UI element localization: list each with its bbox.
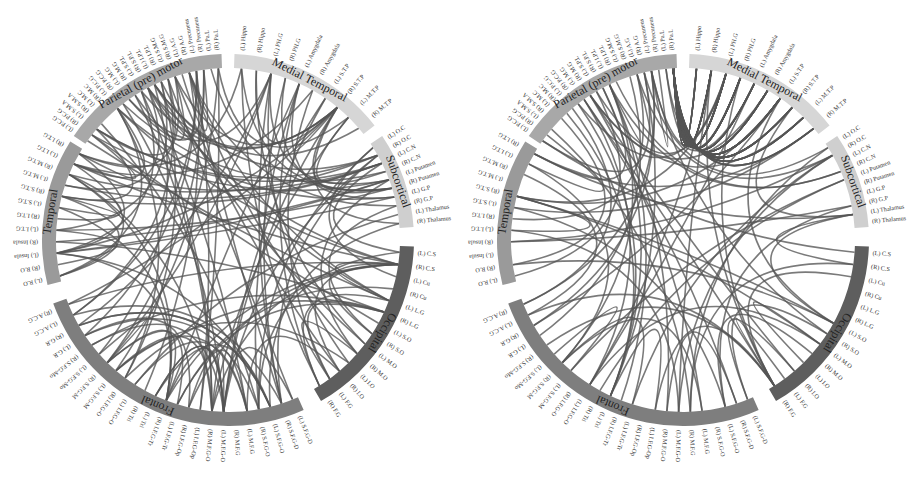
region-label: (L) I.F.G-Op — [189, 427, 202, 460]
connection-chord — [590, 83, 754, 384]
region-label: (R) Thalamus — [417, 214, 452, 225]
region-label: (L) F.G — [792, 391, 810, 411]
connection-chord — [610, 329, 661, 409]
region-label: (L) M.T.P — [358, 83, 381, 107]
region-label: (R) I.T.G — [471, 210, 495, 221]
region-label: (L) M.T.P — [813, 83, 836, 107]
region-label: (L) M.F.G — [701, 428, 712, 455]
region-label: (R) S.O — [840, 340, 861, 357]
region-label: (L) S.T.P — [332, 62, 352, 86]
region-label: (L) I.F.G-Op — [644, 427, 657, 460]
region-label: (L) S.O — [393, 328, 414, 344]
connection-chord — [777, 215, 854, 265]
region-label: (R) S.O — [385, 340, 406, 357]
region-label: (R) Hippo — [255, 27, 267, 53]
chords — [511, 68, 855, 412]
region-label: (R) I.T.G — [16, 210, 40, 221]
region-label: (L) Insula — [469, 251, 494, 261]
region-label: (R) PH.G — [742, 37, 758, 63]
region-label: (R) M.T.P — [825, 96, 850, 119]
region-label: (R) I.F.G-Op — [174, 424, 189, 457]
region-label: (R) M.F.G-O — [204, 429, 215, 462]
region-label: (R) R.O — [474, 264, 495, 275]
region-label: (R) L.G — [854, 315, 876, 331]
region-label: (R) M.F.G — [688, 430, 697, 457]
region-label: (L) I.T.G — [15, 225, 38, 234]
chord-diagram-left-svg: (L) Hippo(R) Hippo(L) PH.G(R) PH.G(L) Am… — [0, 0, 455, 483]
region-label: (L) M.F.G-O — [674, 430, 683, 463]
region-label: (R) G.P — [868, 194, 889, 206]
region-label: (R) A.C.G — [26, 308, 53, 325]
region-label: (L) S.F.G-O — [726, 423, 741, 454]
region-label: (L) R.O — [22, 276, 43, 288]
region-label: (R) M.F.G-O — [659, 429, 670, 462]
region-label: (L) Amygdala — [758, 33, 780, 68]
region-label: (R) I.F.G-Op — [629, 424, 644, 457]
chord-diagram-right: (L) Hippo(R) Hippo(L) PH.G(R) PH.G(L) Am… — [455, 0, 910, 483]
region-label: (R) G.P — [413, 194, 434, 206]
region-label: (R) Pa.L — [212, 29, 221, 51]
region-label: (R) Hippo — [710, 27, 722, 53]
region-label: (L) I.O — [814, 372, 832, 390]
region-label: (R) Thalamus — [872, 214, 907, 225]
region-label: (L) Tri — [138, 411, 152, 430]
region-label: (R) Tri — [125, 405, 140, 424]
region-label: (L) I.T.G — [470, 225, 493, 234]
region-label: (R) R.O — [19, 264, 40, 275]
region-label: (R) Insula — [468, 239, 493, 247]
region-label: (R) M.T.P — [370, 96, 395, 119]
region-label: (R) Cu — [409, 290, 428, 303]
region-label: (R) F.G — [781, 399, 798, 420]
region-label: (L) S.O — [848, 328, 869, 344]
region-label: (L) PH.G — [726, 32, 740, 57]
region-label: (R) L.G — [399, 315, 421, 331]
region-label: (L) S.T.G — [472, 196, 497, 208]
region-label: (R) Tri — [580, 405, 595, 424]
region-label: (L) Hippo — [693, 25, 703, 50]
connection-chord — [513, 118, 605, 264]
region-label: (L) PH.G — [271, 32, 285, 57]
region-label: (L) L.G — [405, 303, 426, 317]
region-label: (L) Thalamus — [415, 202, 450, 215]
region-label: (L) S.T.G — [17, 196, 42, 208]
region-label: (R) S.T.G — [19, 182, 45, 196]
region-label: (L) Cu — [868, 276, 886, 287]
region-label: (L) Tri — [593, 411, 607, 430]
region-label: (R) I.T.G — [41, 130, 65, 149]
region-label: (R) S.T.G — [474, 182, 500, 196]
region-label: (L) R.O — [477, 276, 498, 288]
region-label: (L) M.F.G — [246, 428, 257, 455]
chords — [56, 68, 400, 412]
region-label: (R) Cu — [864, 290, 883, 303]
region-label: (R) Insula — [13, 239, 38, 247]
region-label: (L) Insula — [14, 251, 39, 261]
region-label: (L) C.S — [872, 249, 892, 258]
region-label: (L) M.F.G-O — [219, 430, 228, 463]
chord-diagram-left: (L) Hippo(R) Hippo(L) PH.G(R) PH.G(L) Am… — [0, 0, 455, 483]
region-label: (R) PH.G — [287, 37, 303, 63]
region-label: (L) C.S — [417, 249, 437, 258]
region-label: (R) C.S — [416, 263, 436, 274]
region-label: (R) I.O — [803, 382, 821, 401]
chord-diagram-right-svg: (L) Hippo(R) Hippo(L) PH.G(R) PH.G(L) Am… — [455, 0, 910, 483]
region-label: (L) Cu — [413, 276, 431, 287]
region-label: (L) Thalamus — [870, 202, 905, 215]
region-label: (L) Hippo — [238, 25, 248, 50]
region-label: (L) S.T.P — [787, 62, 807, 86]
region-label: (R) I.O — [348, 382, 366, 401]
region-label: (R) F.G — [326, 399, 343, 420]
region-label: (R) C.S — [871, 263, 891, 274]
region-label: (L) Amygdala — [303, 33, 325, 68]
region-label: (L) L.G — [860, 303, 881, 317]
region-label: (R) I.T.G — [496, 130, 520, 149]
region-label: (L) I.O — [359, 372, 377, 390]
region-label: (R) S.F.G-O — [259, 426, 272, 458]
region-label: (R) S.F.G-O — [714, 426, 727, 458]
region-label: (R) M.F.G — [233, 430, 242, 457]
region-label: (L) F.G — [337, 391, 355, 411]
region-label: (R) A.C.G — [481, 308, 508, 325]
region-label: (R) Pa.L — [667, 29, 676, 51]
region-label: (R) S.F.G-D — [739, 419, 756, 451]
region-label: (R) S.F.G-D — [284, 419, 301, 451]
region-label: (L) S.F.G-O — [271, 423, 286, 454]
